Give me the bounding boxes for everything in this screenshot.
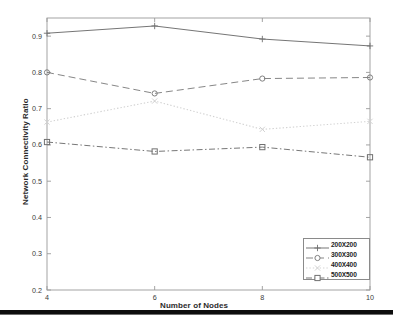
y-tick-label: 0.9 xyxy=(20,32,42,41)
legend-swatch-300x300 xyxy=(304,249,331,259)
legend-item: 400X400 xyxy=(304,259,369,269)
series-line-500x500 xyxy=(47,142,370,157)
series-line-200x200 xyxy=(47,26,370,46)
y-axis-title: Network Connectivity Ratio xyxy=(21,98,30,205)
legend-swatch-400x400 xyxy=(304,259,331,269)
y-tick-label: 0.3 xyxy=(20,249,42,258)
x-tick-label: 4 xyxy=(37,293,57,302)
legend-item: 500X500 xyxy=(304,269,369,279)
legend-label-500x500: 500X500 xyxy=(331,271,357,278)
legend-label-300x300: 300X300 xyxy=(331,251,357,258)
x-tick-label: 8 xyxy=(252,293,272,302)
y-tick-label: 0.6 xyxy=(20,140,42,149)
y-tick-label: 0.4 xyxy=(20,213,42,222)
x-tick-label: 6 xyxy=(145,293,165,302)
legend-swatch-500x500 xyxy=(304,269,331,279)
legend-label-400x400: 400X400 xyxy=(331,261,357,268)
legend-line-sample xyxy=(304,273,331,283)
series-line-300x300 xyxy=(47,72,370,93)
series-line-400x400 xyxy=(47,101,370,129)
x-tick-label: 10 xyxy=(360,293,380,302)
legend-item: 200X200 xyxy=(304,239,369,249)
x-axis-title: Number of Nodes xyxy=(160,301,228,310)
figure-canvas: Network Connectivity Ratio Number of Nod… xyxy=(0,0,393,321)
y-tick-label: 0.5 xyxy=(20,177,42,186)
page-edge-bar-shadow xyxy=(0,314,393,315)
y-tick-label: 0.8 xyxy=(20,68,42,77)
chart-legend: 200X200 300X300 400X400 500X500 xyxy=(303,238,370,280)
legend-swatch-200x200 xyxy=(304,239,331,249)
legend-item: 300X300 xyxy=(304,249,369,259)
y-tick-label: 0.7 xyxy=(20,104,42,113)
legend-label-200x200: 200X200 xyxy=(331,241,357,248)
